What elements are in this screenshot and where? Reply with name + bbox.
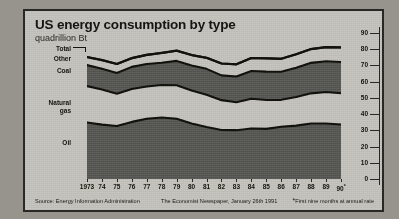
x-tick-label-75: 75 [113,183,120,190]
x-tick-label-82: 82 [218,183,225,190]
y-tick-label-30: 30 [361,126,368,133]
plot-area [87,33,341,179]
y-tick-label-90: 90 [361,29,368,36]
y-axis: 0102030405060708090 [355,27,385,185]
y-tick-mark-90 [370,33,379,34]
y-tick-label-80: 80 [361,45,368,52]
x-tick-mark-85 [266,179,267,182]
x-axis: 19737475767778798081828384858687888990* [87,179,341,193]
x-tick-label-83: 83 [233,183,240,190]
y-tick-label-40: 40 [361,110,368,117]
x-tick-label-84: 84 [248,183,255,190]
chart-subtitle: quadrillion Btu [35,33,92,43]
total-leader-line-vertical [85,47,86,52]
x-tick-mark-83 [236,179,237,182]
publication-note: The Economist Newspaper, January 26th 19… [161,198,277,204]
y-tick-mark-10 [370,163,379,164]
series-label-coal: Coal [39,67,71,75]
x-tick-mark-90 [341,179,342,182]
source-note: Source: Energy Information Administratio… [35,198,140,204]
footnote-note: *First nine months at annual rate [293,198,374,204]
x-tick-label-90: 90* [336,183,345,192]
x-tick-label-85: 85 [263,183,270,190]
x-tick-mark-75 [117,179,118,182]
x-tick-mark-89 [326,179,327,182]
y-axis-rule [379,27,380,185]
y-tick-mark-0 [370,179,379,180]
x-tick-mark-86 [281,179,282,182]
x-tick-label-76: 76 [128,183,135,190]
y-tick-mark-30 [370,130,379,131]
y-tick-mark-60 [370,82,379,83]
y-tick-mark-70 [370,65,379,66]
x-tick-label-89: 89 [322,183,329,190]
y-tick-label-0: 0 [364,175,368,182]
x-tick-label-86: 86 [278,183,285,190]
chart-panel: US energy consumption by type quadrillio… [23,9,384,212]
y-tick-mark-40 [370,114,379,115]
x-tick-mark-80 [192,179,193,182]
x-tick-mark-76 [132,179,133,182]
x-tick-label-1973: 1973 [80,183,94,190]
chart-title: US energy consumption by type [35,17,235,32]
x-tick-label-80: 80 [188,183,195,190]
y-tick-mark-20 [370,147,379,148]
x-tick-label-74: 74 [98,183,105,190]
y-tick-mark-80 [370,49,379,50]
x-tick-label-87: 87 [293,183,300,190]
x-tick-label-88: 88 [307,183,314,190]
x-tick-mark-79 [177,179,178,182]
chart-image: US energy consumption by type quadrillio… [0,0,399,219]
x-tick-label-78: 78 [158,183,165,190]
x-tick-mark-1973 [87,179,88,182]
series-label-oil: Oil [39,139,71,147]
series-label-other: Other [39,55,71,63]
x-tick-mark-88 [311,179,312,182]
x-tick-mark-74 [102,179,103,182]
x-tick-mark-78 [162,179,163,182]
x-tick-label-81: 81 [203,183,210,190]
series-label-natural-gas: Natural gas [35,99,71,114]
footnote-text: First nine months at annual rate [295,198,374,204]
x-tick-mark-87 [296,179,297,182]
y-tick-label-10: 10 [361,159,368,166]
series-label-total: Total [39,45,71,53]
x-tick-mark-77 [147,179,148,182]
y-tick-mark-50 [370,98,379,99]
y-tick-label-50: 50 [361,94,368,101]
x-tick-mark-81 [207,179,208,182]
y-tick-label-20: 20 [361,143,368,150]
y-tick-label-60: 60 [361,78,368,85]
x-axis-footnote-marker: * [344,183,346,189]
x-tick-label-79: 79 [173,183,180,190]
stacked-area-svg [87,33,341,179]
x-tick-label-77: 77 [143,183,150,190]
y-tick-label-70: 70 [361,61,368,68]
x-tick-mark-84 [251,179,252,182]
x-tick-mark-82 [221,179,222,182]
